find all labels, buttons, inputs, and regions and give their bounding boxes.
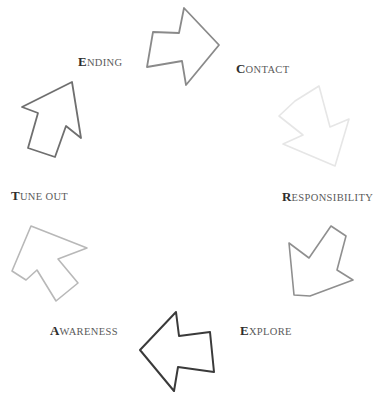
arrow-responsibility (274, 222, 354, 302)
stage-label-explore: EXPLORE (240, 324, 292, 338)
stage-label-ending-lead: E (78, 54, 87, 69)
stage-label-awareness-lead: A (50, 323, 60, 338)
arrow-awareness (9, 218, 93, 304)
arrow-ending (139, 3, 227, 89)
arrow-explore (134, 306, 226, 398)
stage-label-ending-rest: NDING (87, 57, 123, 68)
arrow-tune-out (9, 78, 97, 164)
stage-label-tune-out-lead: T (11, 188, 20, 203)
stage-label-contact-rest: ONTACT (246, 64, 290, 75)
stage-label-contact: CONTACT (236, 62, 289, 76)
stage-label-tune-out-rest: UNE OUT (20, 191, 68, 202)
stage-label-responsibility-rest: ESPONSIBILITY (292, 192, 374, 203)
stage-label-contact-lead: C (236, 61, 246, 76)
stage-label-explore-rest: XPLORE (249, 326, 292, 337)
cycle-diagram: CONTACT RESPONSIBILITY EXPLORE (0, 0, 378, 406)
stage-label-awareness: AWARENESS (50, 324, 118, 338)
stage-label-explore-lead: E (240, 323, 249, 338)
stage-label-tune-out: TUNE OUT (11, 189, 68, 203)
stage-label-responsibility-lead: R (282, 189, 292, 204)
stage-label-awareness-rest: WARENESS (60, 326, 118, 337)
stage-label-ending: ENDING (78, 55, 122, 69)
arrow-contact (277, 83, 353, 169)
stage-label-responsibility: RESPONSIBILITY (282, 190, 373, 204)
